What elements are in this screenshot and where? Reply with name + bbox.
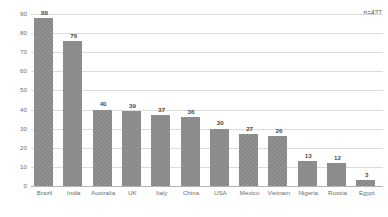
y-axis-tick-label: 50: [0, 87, 27, 93]
bar-value-label: 26: [265, 128, 292, 134]
bar[interactable]: [151, 115, 170, 186]
bar-value-label: 36: [178, 109, 205, 115]
bar-slot: 76: [60, 14, 87, 186]
bar[interactable]: [93, 110, 112, 186]
y-axis-tick-label: 30: [0, 126, 27, 132]
bar[interactable]: [34, 18, 53, 186]
bar[interactable]: [298, 161, 317, 186]
bar-slot: 12: [324, 14, 351, 186]
y-axis-tick-label: 60: [0, 68, 27, 74]
y-axis-tick-label: 10: [0, 164, 27, 170]
bar-slot: 39: [119, 14, 146, 186]
bar-slot: 37: [148, 14, 175, 186]
bar-value-label: 30: [207, 120, 234, 126]
bar-value-label: 39: [119, 103, 146, 109]
bar[interactable]: [239, 134, 258, 186]
bar[interactable]: [210, 129, 229, 186]
y-axis-tick-label: 90: [0, 11, 27, 17]
bar-value-label: 76: [60, 33, 87, 39]
bar-value-label: 27: [236, 126, 263, 132]
bar[interactable]: [327, 163, 346, 186]
bar-slot: 30: [207, 14, 234, 186]
bar[interactable]: [268, 136, 287, 186]
bar-value-label: 88: [31, 10, 58, 16]
bar[interactable]: [122, 111, 141, 186]
bar-slot: 40: [90, 14, 117, 186]
bar[interactable]: [356, 180, 375, 186]
bar-slot: 36: [178, 14, 205, 186]
bar-slot: 26: [265, 14, 292, 186]
bar[interactable]: [181, 117, 200, 186]
y-axis-tick-label: 20: [0, 145, 27, 151]
y-axis-tick-label: 80: [0, 30, 27, 36]
bar-chart: n=427 0102030405060708090 88764039373630…: [0, 0, 388, 217]
x-axis-category-label: Egypt: [347, 190, 387, 196]
bar-value-label: 40: [90, 101, 117, 107]
bar-slot: 88: [31, 14, 58, 186]
bar-slot: 3: [353, 14, 380, 186]
bar-slot: 13: [295, 14, 322, 186]
y-axis-tick-label: 40: [0, 107, 27, 113]
bar-value-label: 37: [148, 107, 175, 113]
bar-value-label: 3: [353, 172, 380, 178]
bar-value-label: 13: [295, 153, 322, 159]
bar[interactable]: [63, 41, 82, 186]
bar-slot: 27: [236, 14, 263, 186]
y-axis-tick-label: 0: [0, 183, 27, 189]
axis-baseline: [31, 186, 383, 187]
bar-series: 88764039373630272613123: [31, 14, 383, 186]
y-axis-tick-label: 70: [0, 49, 27, 55]
bar-value-label: 12: [324, 155, 351, 161]
